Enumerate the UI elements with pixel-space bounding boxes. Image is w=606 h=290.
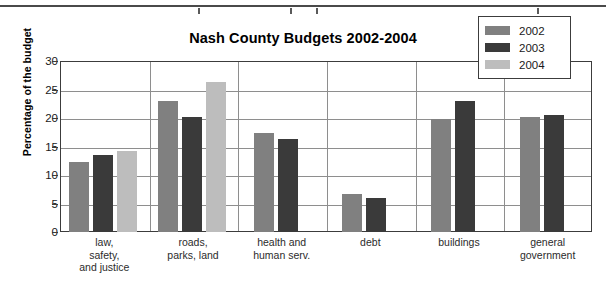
bar-2003-cat3 — [366, 198, 386, 232]
chart-legend: 2002 2003 2004 — [478, 16, 571, 79]
bar-2002-cat2 — [254, 133, 274, 232]
gridline-10 — [61, 176, 591, 177]
category-label-2: health andhuman serv. — [237, 236, 326, 261]
bar-2002-cat3 — [342, 194, 362, 232]
bar-2002-cat4 — [431, 119, 451, 232]
chart-page: Nash County Budgets 2002-2004 Percentage… — [0, 0, 606, 290]
bar-2003-cat4 — [455, 101, 475, 232]
group-separator-1 — [150, 62, 151, 231]
gridline-5 — [61, 205, 591, 206]
bar-2003-cat5 — [544, 115, 564, 232]
bar-2003-cat2 — [278, 139, 298, 232]
y-tick-mark-20 — [52, 118, 58, 119]
y-tick-mark-5 — [52, 204, 58, 205]
y-tick-mark-25 — [52, 90, 58, 91]
group-separator-5 — [504, 62, 505, 231]
y-tick-mark-10 — [52, 175, 58, 176]
gridline-20 — [61, 119, 591, 120]
legend-item-2004: 2004 — [485, 56, 563, 73]
page-top-rule — [0, 5, 606, 7]
gridline-25 — [61, 91, 591, 92]
category-label-3: debt — [326, 236, 415, 249]
legend-swatch-2003 — [485, 43, 510, 52]
y-axis-ticks: 302520151050 — [0, 61, 58, 232]
bar-2002-cat0 — [69, 162, 89, 232]
group-separator-2 — [238, 62, 239, 231]
bar-2003-cat1 — [182, 117, 202, 232]
legend-label-2003: 2003 — [519, 42, 545, 54]
y-tick-mark-15 — [52, 147, 58, 148]
legend-item-2002: 2002 — [485, 22, 563, 39]
category-label-5: generalgovernment — [503, 236, 592, 261]
y-tick-mark-0 — [52, 232, 58, 233]
bar-2004-cat0 — [117, 151, 137, 232]
y-tick-mark-30 — [52, 61, 58, 62]
gridline-15 — [61, 148, 591, 149]
group-separator-3 — [327, 62, 328, 231]
legend-swatch-2004 — [485, 60, 510, 69]
bar-2004-cat1 — [206, 82, 226, 232]
legend-item-2003: 2003 — [485, 39, 563, 56]
category-label-1: roads,parks, land — [149, 236, 238, 261]
legend-swatch-2002 — [485, 26, 510, 35]
legend-label-2002: 2002 — [519, 25, 545, 37]
plot-area — [60, 61, 592, 232]
bar-2003-cat0 — [93, 155, 113, 232]
category-label-0: law,safety,and justice — [60, 236, 149, 274]
bar-2002-cat5 — [520, 117, 540, 232]
category-label-4: buildings — [415, 236, 504, 249]
group-separator-4 — [416, 62, 417, 231]
legend-label-2004: 2004 — [519, 59, 545, 71]
bar-2002-cat1 — [158, 101, 178, 232]
